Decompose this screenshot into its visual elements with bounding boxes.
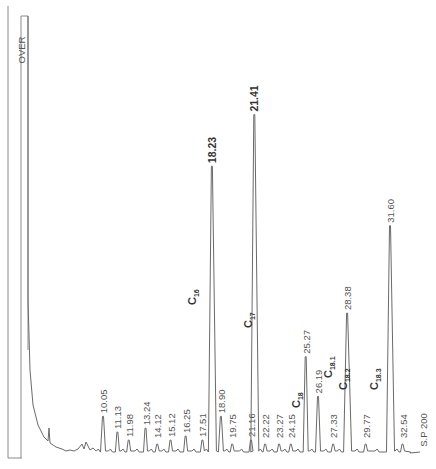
compound-label: C18.3 [368,368,382,390]
peak-label: 29.77 [361,414,372,438]
peak-label: 18.90 [216,390,227,414]
peak-label: 10.05 [98,390,109,414]
peak-label: 17.51 [197,413,208,437]
peak-label: 11.98 [124,414,135,437]
peak-label: 27.33 [328,414,339,438]
peak-label: 11.13 [112,406,123,429]
peak-label: 13.24 [141,401,152,425]
peak-label: 31.60 [385,199,396,223]
chromatogram-trace [28,16,420,453]
peak-label: 15.12 [166,413,177,437]
peak-label: 19.75 [227,414,238,438]
peak-label: 25.27 [301,330,312,354]
peak-label: 24.15 [286,414,297,438]
peak-label: 28.38 [342,286,353,310]
peak-label: 22.22 [260,414,271,438]
overflow-label: OVER [16,36,27,63]
peak-label: 16.25 [181,409,192,433]
end-label: S.P 200 [418,413,429,447]
chromatogram: OVER 10.0511.1311.9813.2414.1215.1216.25… [0,0,436,469]
overflow-box [21,16,28,458]
peak-label: 23.27 [274,414,285,438]
peak-label: 14.12 [152,414,163,438]
compound-label: C17 [242,312,256,328]
y-axis-frame [8,6,22,458]
peak-label: 32.54 [398,414,409,438]
peak-label: 21.16 [246,413,257,437]
compound-label: C16 [186,289,200,305]
compound-label: C18.2 [337,368,351,390]
compound-label: C18.1 [322,356,336,378]
peak-label: 21.41 [248,85,260,111]
peak-label: 18.23 [206,137,218,163]
compound-label: C18 [290,392,304,408]
